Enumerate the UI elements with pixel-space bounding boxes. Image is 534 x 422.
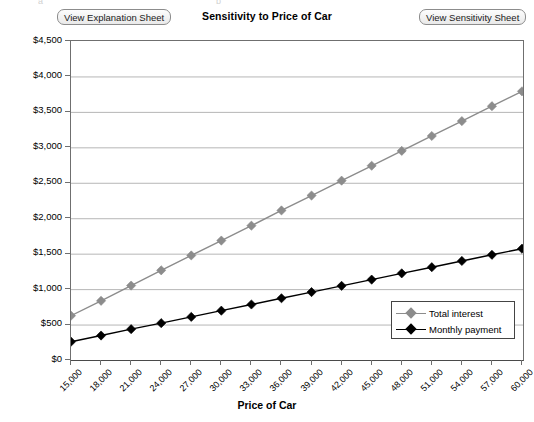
y-axis-tick-label: $0 [0, 353, 62, 364]
data-point-marker [457, 117, 466, 126]
clipped-row-above: a b [0, 0, 534, 7]
data-point-marker [337, 281, 346, 290]
legend-label-total-interest: Total interest [429, 308, 483, 319]
legend-item-total-interest: Total interest [396, 305, 510, 321]
y-axis-tick-label: $4,500 [0, 34, 62, 45]
y-axis-tick-label: $1,000 [0, 282, 62, 293]
x-axis-tick-mark [190, 360, 191, 365]
data-point-marker [71, 337, 76, 346]
data-point-marker [367, 275, 376, 284]
y-axis-tick-label: $500 [0, 317, 62, 328]
data-point-marker [277, 294, 286, 303]
data-point-marker [367, 161, 376, 170]
x-axis-tick-mark [371, 360, 372, 365]
data-point-marker [307, 287, 316, 296]
x-axis-title: Price of Car [0, 399, 534, 411]
y-axis-tick-label: $2,000 [0, 211, 62, 222]
data-point-marker [517, 87, 523, 96]
x-axis-tick-mark [220, 360, 221, 365]
y-axis-tick-label: $1,500 [0, 246, 62, 257]
y-axis-tick-label: $4,000 [0, 69, 62, 80]
ghost-text-left: a [38, 0, 43, 6]
ghost-text-right: b [216, 0, 221, 6]
data-point-marker [187, 312, 196, 321]
data-point-marker [337, 176, 346, 185]
x-axis-tick-mark [401, 360, 402, 365]
chart-title: Sensitivity to Price of Car [0, 10, 534, 22]
x-axis-tick-mark [280, 360, 281, 365]
y-axis-tick-label: $3,000 [0, 140, 62, 151]
data-point-marker [397, 269, 406, 278]
x-axis-tick-mark [311, 360, 312, 365]
data-point-marker [247, 300, 256, 309]
data-point-marker [277, 206, 286, 215]
chart-legend: Total interest Monthly payment [391, 301, 515, 339]
data-point-marker [96, 296, 105, 305]
data-point-marker [307, 191, 316, 200]
legend-marker-monthly-payment-icon [396, 323, 426, 335]
x-axis-tick-mark [130, 360, 131, 365]
x-axis-tick-mark [521, 360, 522, 365]
data-point-marker [517, 244, 523, 253]
data-point-marker [157, 319, 166, 328]
data-point-marker [71, 311, 76, 320]
series-line-total-interest [71, 91, 522, 315]
data-point-marker [427, 263, 436, 272]
data-point-marker [247, 221, 256, 230]
data-point-marker [217, 306, 226, 315]
x-axis-tick-mark [70, 360, 71, 365]
x-axis-tick-mark [100, 360, 101, 365]
data-point-marker [427, 131, 436, 140]
data-point-marker [127, 281, 136, 290]
data-point-marker [96, 331, 105, 340]
x-axis-tick-mark [341, 360, 342, 365]
data-point-marker [457, 256, 466, 265]
legend-label-monthly-payment: Monthly payment [429, 324, 501, 335]
data-point-marker [157, 266, 166, 275]
y-axis-tick-label: $2,500 [0, 175, 62, 186]
x-axis-tick-mark [250, 360, 251, 365]
data-point-marker [487, 250, 496, 259]
x-axis-tick-mark [491, 360, 492, 365]
data-point-marker [487, 102, 496, 111]
data-point-marker [217, 236, 226, 245]
data-point-marker [127, 325, 136, 334]
x-axis-tick-mark [431, 360, 432, 365]
chart-screenshot: a b View Explanation Sheet View Sensitiv… [0, 0, 534, 422]
legend-marker-total-interest-icon [396, 307, 426, 319]
x-axis-tick-mark [461, 360, 462, 365]
y-axis-tick-label: $3,500 [0, 104, 62, 115]
x-axis-tick-mark [160, 360, 161, 365]
legend-item-monthly-payment: Monthly payment [396, 321, 510, 337]
data-point-marker [187, 251, 196, 260]
